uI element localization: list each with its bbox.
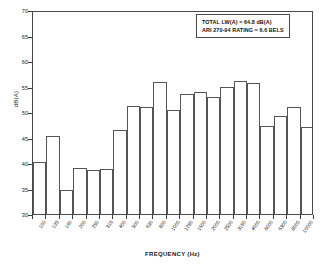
x-tick-label: 100 xyxy=(37,219,47,229)
y-tick-mark xyxy=(28,215,32,216)
bar xyxy=(247,83,260,214)
x-tick-label: 3150 xyxy=(236,219,247,232)
bar xyxy=(287,107,300,214)
x-tick-label: 5000 xyxy=(263,219,274,232)
x-tick-label: 630 xyxy=(144,219,154,229)
x-tick-label: 6300 xyxy=(276,219,287,232)
bar xyxy=(46,136,59,214)
bar xyxy=(260,126,273,214)
x-tick-label: 8000 xyxy=(290,219,301,232)
x-tick-label: 2500 xyxy=(223,219,234,232)
bar xyxy=(167,110,180,214)
y-tick-mark xyxy=(28,11,32,12)
bar xyxy=(73,168,86,214)
y-tick-mark xyxy=(28,113,32,114)
x-tick-label: 1000 xyxy=(169,219,180,232)
x-tick-label: 1600 xyxy=(196,219,207,232)
bar xyxy=(113,130,126,214)
annotation-ari-rating: ARI 270-94 RATING = 6.6 BELS xyxy=(202,26,284,34)
x-tick-label: 250 xyxy=(90,219,100,229)
y-tick-mark xyxy=(28,190,32,191)
y-tick-mark xyxy=(28,88,32,89)
x-tick-label: 400 xyxy=(117,219,127,229)
bar xyxy=(33,162,46,214)
bar xyxy=(234,81,247,214)
bar xyxy=(60,190,73,214)
x-tick-label: 4000 xyxy=(249,219,260,232)
bar xyxy=(153,82,166,214)
y-tick-mark xyxy=(28,164,32,165)
bar xyxy=(100,169,113,214)
y-axis-tick-labels: 706560555045403530 xyxy=(0,0,30,273)
y-tick-mark xyxy=(28,139,32,140)
bars-layer xyxy=(33,12,312,214)
bar xyxy=(140,107,153,214)
x-tick-label: 2000 xyxy=(209,219,220,232)
x-tick-mark xyxy=(313,215,314,219)
x-tick-label: 200 xyxy=(77,219,87,229)
bar xyxy=(207,97,220,214)
x-axis-tick-labels: 1001251602002503154005006308001000125016… xyxy=(32,219,313,249)
x-tick-label: 500 xyxy=(131,219,141,229)
y-tick-mark xyxy=(28,37,32,38)
annotation-total-lwa: TOTAL LW(A) = 64.8 dB(A) xyxy=(202,18,284,26)
bar xyxy=(87,170,100,214)
x-tick-label: 10000 xyxy=(301,219,314,234)
bar xyxy=(301,127,313,214)
bar xyxy=(274,116,287,214)
x-tick-label: 160 xyxy=(64,219,74,229)
y-tick-mark xyxy=(28,62,32,63)
x-tick-label: 1250 xyxy=(182,219,193,232)
x-tick-label: 315 xyxy=(104,219,114,229)
x-tick-label: 800 xyxy=(157,219,167,229)
plot-area xyxy=(32,11,313,215)
x-tick-label: 125 xyxy=(50,219,60,229)
bar xyxy=(220,87,233,214)
sound-power-spectrum-chart: dB(A) 706560555045403530 100125160200250… xyxy=(0,0,321,273)
annotation-box: TOTAL LW(A) = 64.8 dB(A) ARI 270-94 RATI… xyxy=(196,14,290,38)
bar xyxy=(180,94,193,214)
bar xyxy=(127,106,140,214)
bar xyxy=(194,92,207,214)
x-axis-title: FREQUENCY (Hz) xyxy=(32,251,313,257)
